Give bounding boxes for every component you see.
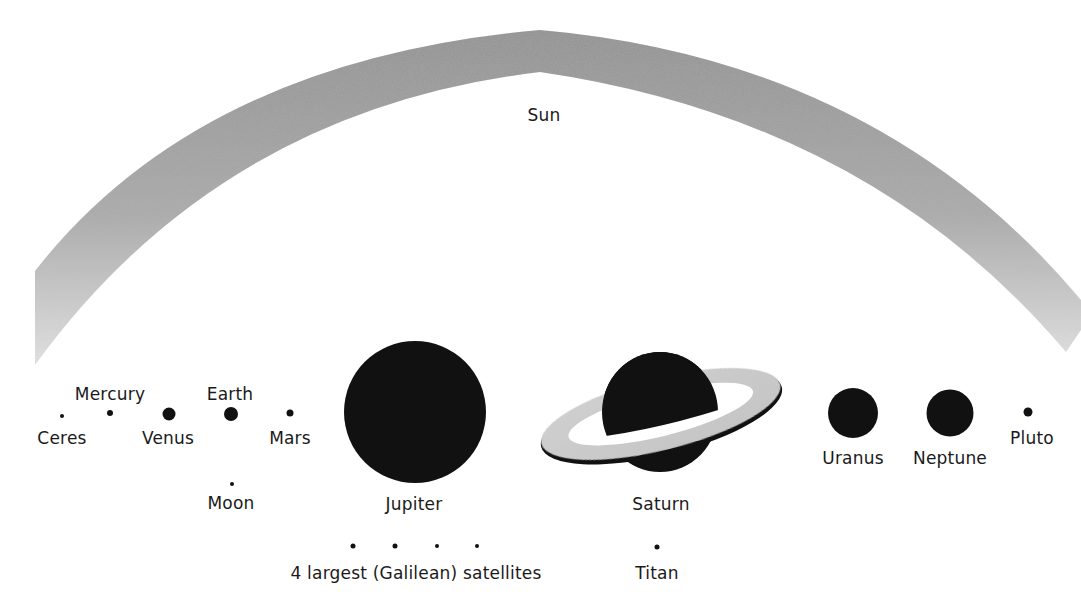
ceres-label: Ceres xyxy=(37,428,86,448)
earth-label: Earth xyxy=(207,384,254,404)
pluto-label: Pluto xyxy=(1010,428,1054,448)
uranus-label: Uranus xyxy=(822,448,883,468)
galilean-satellite-dot xyxy=(475,544,479,548)
jupiter-label: Jupiter xyxy=(386,494,443,514)
mercury-label: Mercury xyxy=(75,384,145,404)
jupiter-body xyxy=(344,341,486,483)
saturn-label: Saturn xyxy=(632,494,689,514)
mars-body xyxy=(287,410,294,417)
neptune-label: Neptune xyxy=(913,448,987,468)
earth-body xyxy=(224,407,238,421)
galilean-satellite-dot xyxy=(351,544,356,549)
sun-arc xyxy=(0,0,1081,603)
neptune-body xyxy=(927,390,974,437)
galilean-satellite-dot xyxy=(435,544,439,548)
ceres-body xyxy=(60,414,64,418)
galilean-label: 4 largest (Galilean) satellites xyxy=(290,563,541,583)
titan-label: Titan xyxy=(635,563,678,583)
venus-body xyxy=(163,408,176,421)
pluto-body xyxy=(1024,408,1033,417)
solar-system-size-diagram: Sun CeresMercuryVenusEarthMarsMoonJupite… xyxy=(0,0,1081,603)
venus-label: Venus xyxy=(142,428,194,448)
mars-label: Mars xyxy=(269,428,311,448)
titan-dot xyxy=(655,545,660,550)
galilean-satellite-dot xyxy=(393,544,398,549)
sun-label: Sun xyxy=(528,105,561,125)
saturn-graphic xyxy=(532,349,791,484)
uranus-body xyxy=(828,388,878,438)
moon-label: Moon xyxy=(207,493,254,513)
mercury-body xyxy=(107,410,113,416)
moon-body xyxy=(230,482,234,486)
